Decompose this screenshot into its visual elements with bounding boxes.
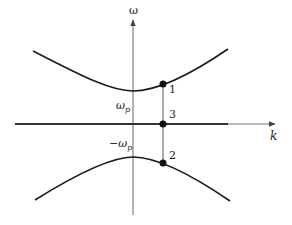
omega-p-label: ωp (116, 99, 130, 114)
point-2 (160, 160, 167, 167)
point-3-label: 3 (169, 108, 176, 121)
upper-branch-curve (33, 49, 228, 91)
neg-omega-p-label: −ωp (109, 137, 132, 152)
dispersion-diagram: ω k ωp −ωp 1 3 2 (0, 0, 292, 225)
point-1-label: 1 (169, 83, 176, 96)
k-axis-label: k (270, 129, 277, 143)
omega-axis-label: ω (129, 4, 138, 17)
point-3 (160, 121, 167, 128)
point-1 (160, 81, 167, 88)
point-2-label: 2 (169, 149, 176, 162)
